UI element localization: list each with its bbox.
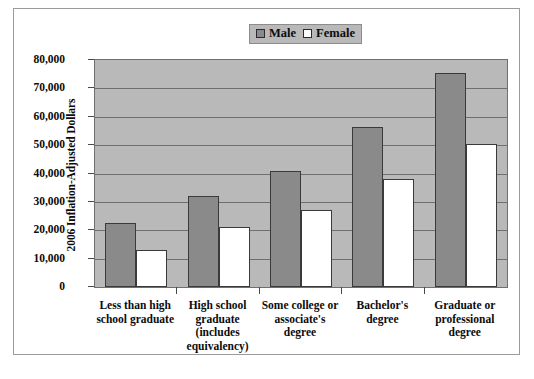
bar-group-less-than-high-school	[95, 60, 177, 287]
y-tick-label-30000: 30,000	[0, 195, 65, 207]
chart-figure: Male Female 2006 Inflation-Adjusted Doll…	[13, 8, 520, 355]
legend-entry-female: Female	[303, 26, 355, 41]
bar-female-bachelors-degree	[383, 179, 414, 287]
bar-male-high-school-graduate	[188, 196, 219, 287]
bar-female-some-college	[301, 210, 332, 287]
legend-swatch-female-icon	[303, 29, 312, 38]
y-tick-label-0: 0	[0, 280, 65, 292]
legend-label-male: Male	[269, 26, 296, 41]
bar-male-less-than-high-school	[105, 223, 136, 287]
x-category-line: Graduate or	[417, 299, 513, 313]
bar-female-high-school-graduate	[219, 227, 250, 287]
bar-group-graduate-professional	[425, 60, 507, 287]
x-tick-mark-2	[259, 287, 260, 294]
bar-group-high-school-graduate	[177, 60, 259, 287]
x-tick-mark-4	[424, 287, 425, 294]
legend-label-female: Female	[316, 26, 355, 41]
legend-entry-male: Male	[256, 26, 296, 41]
x-category-line: degree	[252, 326, 348, 340]
y-tick-label-50000: 50,000	[0, 138, 65, 150]
legend-swatch-male-icon	[256, 29, 265, 38]
y-tick-label-40000: 40,000	[0, 167, 65, 179]
x-tick-mark-3	[341, 287, 342, 294]
x-category-line: degree	[417, 326, 513, 340]
bar-male-bachelors-degree	[352, 127, 383, 287]
x-category-line: professional	[417, 313, 513, 327]
x-category-label-graduate-professional: Graduate or professional degree	[417, 299, 513, 340]
bar-male-some-college	[270, 171, 301, 287]
y-tick-label-10000: 10,000	[0, 252, 65, 264]
x-tick-mark-1	[176, 287, 177, 294]
bar-female-graduate-professional	[466, 144, 497, 287]
y-tick-label-60000: 60,000	[0, 110, 65, 122]
plot-area	[94, 59, 508, 288]
y-tick-label-70000: 70,000	[0, 81, 65, 93]
bar-group-bachelors-degree	[342, 60, 424, 287]
y-axis-title: 2006 Inflation-Adjusted Dollars	[65, 55, 77, 295]
y-tick-label-80000: 80,000	[0, 53, 65, 65]
bar-female-less-than-high-school	[136, 250, 167, 287]
bar-male-graduate-professional	[435, 73, 466, 287]
x-category-line: equivalency)	[170, 340, 266, 354]
bar-group-some-college	[260, 60, 342, 287]
chart-legend: Male Female	[249, 24, 362, 44]
y-tick-label-20000: 20,000	[0, 223, 65, 235]
